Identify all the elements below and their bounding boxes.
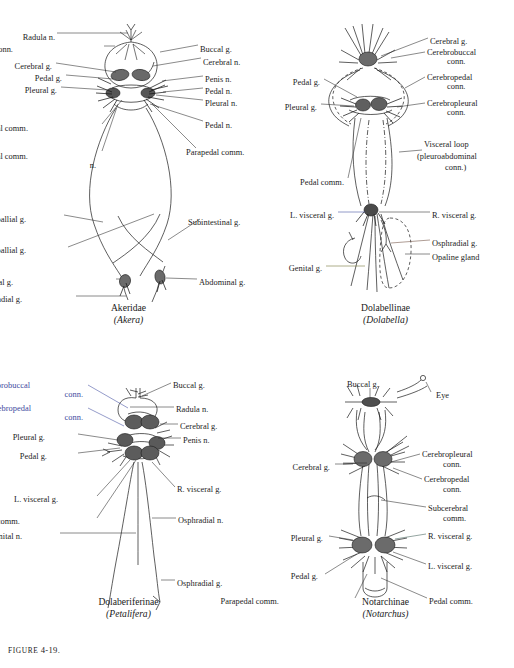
anatomy-label: Cerebral n.	[203, 58, 240, 67]
anatomy-label: n.	[90, 161, 96, 170]
caption-dolabellinae: Dolabellinae (Dolabella)	[257, 302, 514, 325]
anatomy-label: Buccal g.	[200, 45, 232, 54]
akera-nerves	[96, 78, 168, 296]
anatomy-label: Cerebropleural	[427, 99, 478, 108]
anatomy-label: Osphradial g.	[432, 239, 477, 248]
anatomy-label: Pedal g.	[35, 74, 62, 83]
anatomy-label: conn.	[65, 390, 83, 399]
anatomy-label: Pedal comm.	[429, 597, 473, 606]
anatomy-label: Visceral loop	[424, 140, 469, 149]
figure-page: Akeridae (Akera) Radula n.Cerebrobuccal …	[0, 0, 514, 668]
anatomy-label: Parapedal comm.	[221, 597, 279, 606]
figure-number: FIGURE 4-19.	[8, 645, 60, 655]
anatomy-label: Cerebral g.	[180, 422, 217, 431]
anatomy-label: Pleural g.	[285, 103, 317, 112]
anatomy-label: Cerebral g.	[293, 463, 330, 472]
anatomy-label: R. pallial g.	[0, 246, 26, 255]
anatomy-label: Cerebrobuccal	[427, 48, 476, 57]
anatomy-label: Cerebral g.	[430, 37, 467, 46]
anatomy-label: Radula n.	[176, 405, 208, 414]
anatomy-label: Parapedal comm.	[0, 152, 28, 161]
anatomy-label: Eye	[436, 391, 449, 400]
anatomy-label: Pedal g.	[20, 452, 47, 461]
anatomy-label: Subintestinal g.	[188, 218, 240, 227]
anatomy-label: Genital n.	[0, 532, 22, 541]
anatomy-label: Supraintestinal g.	[0, 278, 13, 287]
anatomy-label: Cerebropedal	[424, 475, 469, 484]
anatomy-label: conn.	[447, 57, 465, 66]
anatomy-label: Pleural n.	[205, 99, 237, 108]
akera-leader-lines	[56, 33, 203, 296]
anatomy-label: comm.	[443, 514, 466, 523]
anatomy-label: Osphradial g.	[177, 579, 222, 588]
anatomy-label: Pedal n.	[205, 121, 232, 130]
anatomy-label: Genital g.	[289, 264, 322, 273]
panel-dolaberiferinae: Dolaberiferinae (Petalifera) Cerebrobucc…	[0, 340, 257, 622]
anatomy-label: conn.)	[445, 163, 466, 172]
panel-dolabellinae: Dolabellinae (Dolabella) Pedal g.Pleural…	[257, 0, 514, 340]
caption-akeridae: Akeridae (Akera)	[0, 302, 257, 325]
akera-ganglia	[106, 68, 166, 288]
anatomy-label: Pedal comm.	[0, 124, 28, 133]
notarchus-leader-lines	[325, 382, 431, 598]
anatomy-label: conn.	[447, 108, 465, 117]
anatomy-label: R. visceral g.	[177, 485, 221, 494]
anatomy-label: L. visceral g.	[290, 211, 334, 220]
anatomy-label: Cerebrobuccal	[0, 381, 30, 390]
anatomy-label: conn.	[443, 460, 461, 469]
anatomy-label: Penis n.	[183, 436, 210, 445]
anatomy-label: Cerebrobuccal conn.	[0, 45, 13, 54]
anatomy-label: Buccal g.	[173, 381, 205, 390]
anatomy-label: Parapedal comm.	[0, 517, 20, 526]
anatomy-label: Pleural g.	[25, 86, 57, 95]
anatomy-label: (pleuroabdominal	[417, 152, 477, 161]
anatomy-label: Buccal g.	[347, 380, 379, 389]
anatomy-label: R. visceral g.	[432, 211, 476, 220]
caption-notarchinae: Notarchinae (Notarchus)	[257, 596, 514, 619]
anatomy-label: R. visceral g.	[428, 532, 472, 541]
anatomy-label: Pedal n.	[205, 87, 232, 96]
panel-notarchinae: Notarchinae (Notarchus) Buccal g.Cerebra…	[257, 340, 514, 622]
anatomy-label: L. visceral g.	[14, 495, 58, 504]
anatomy-label: conn.	[447, 82, 465, 91]
anatomy-label: conn.	[65, 413, 83, 422]
caption-dolaberiferinae: Dolaberiferinae (Petalifera)	[0, 596, 257, 619]
anatomy-label: Osphradial n.	[178, 516, 223, 525]
anatomy-label: Radula n.	[23, 33, 55, 42]
panel-akeridae: Akeridae (Akera) Radula n.Cerebrobuccal …	[0, 0, 257, 340]
anatomy-label: Cerebropleural	[422, 450, 473, 459]
anatomy-label: L. pallial g.	[0, 215, 26, 224]
anatomy-label: Pedal g.	[291, 572, 318, 581]
anatomy-label: Cerebral g.	[15, 62, 52, 71]
anatomy-label: Abdominal g.	[199, 278, 245, 287]
anatomy-label: Parapedal comm.	[186, 148, 244, 157]
anatomy-label: Pedal comm.	[300, 178, 344, 187]
anatomy-label: Opaline gland	[432, 253, 479, 262]
anatomy-label: Pedal g.	[293, 78, 320, 87]
anatomy-label: Pleural g.	[291, 534, 323, 543]
anatomy-label: Cerebropedal	[427, 73, 472, 82]
anatomy-label: Cerebropedal	[0, 404, 31, 413]
anatomy-label: L. visceral g.	[428, 562, 472, 571]
anatomy-label: Penis n.	[205, 75, 232, 84]
anatomy-label: Osphradial g.	[0, 295, 22, 304]
dolabella-leader-lines	[321, 38, 430, 266]
anatomy-label: Pleural g.	[13, 433, 45, 442]
anatomy-label: Subcerebral	[428, 504, 468, 513]
anatomy-label: conn.	[443, 485, 461, 494]
